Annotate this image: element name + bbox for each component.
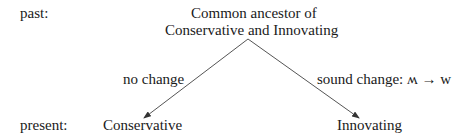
conservative-node: Conservative — [103, 117, 182, 134]
right-branch-label: sound change: ʍ → w — [317, 71, 451, 88]
branch-arrows — [0, 0, 457, 134]
present-row-label: present: — [20, 117, 67, 134]
left-branch-label: no change — [123, 71, 184, 88]
innovating-node: Innovating — [337, 117, 402, 134]
